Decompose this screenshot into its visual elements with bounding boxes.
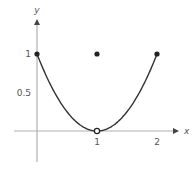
- y-tick-label: 1: [25, 49, 31, 59]
- function-plot: 120.51xy: [0, 0, 194, 169]
- y-tick-label: 0.5: [17, 88, 31, 98]
- labels: 120.51xy: [17, 5, 190, 147]
- curve: [37, 54, 157, 131]
- function-curve: [37, 54, 157, 131]
- open-point: [94, 128, 99, 133]
- x-tick-label: 2: [154, 137, 160, 147]
- filled-point: [34, 51, 39, 56]
- y-axis-label: y: [33, 5, 40, 15]
- x-axis-label: x: [183, 126, 190, 136]
- filled-point: [94, 51, 99, 56]
- filled-point: [154, 51, 159, 56]
- x-tick-label: 1: [94, 137, 100, 147]
- points: [34, 51, 159, 133]
